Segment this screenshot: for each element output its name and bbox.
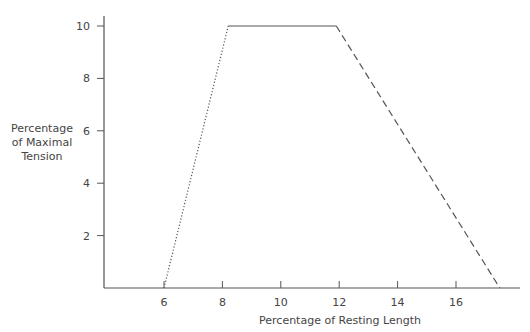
y-tick-label: 10 xyxy=(76,20,90,33)
series-line xyxy=(336,26,500,288)
x-ticks: 6810121416 xyxy=(161,281,464,309)
y-axis-title-line: Percentage xyxy=(11,122,73,135)
y-ticks: 246810 xyxy=(76,20,104,243)
x-tick-label: 12 xyxy=(332,296,346,309)
y-tick-label: 6 xyxy=(83,125,90,138)
y-axis-title-line: of Maximal xyxy=(12,136,72,149)
axes xyxy=(104,16,520,288)
x-tick-label: 14 xyxy=(391,296,405,309)
x-tick-label: 10 xyxy=(274,296,288,309)
series-line xyxy=(164,26,228,288)
series xyxy=(164,26,500,288)
y-axis-title-line: Tension xyxy=(20,150,62,163)
y-tick-label: 2 xyxy=(83,230,90,243)
y-tick-label: 8 xyxy=(83,72,90,85)
length-tension-chart: 246810 6810121416 Percentage of Resting … xyxy=(0,0,530,332)
y-tick-label: 4 xyxy=(83,177,90,190)
x-tick-label: 6 xyxy=(161,296,168,309)
x-tick-label: 16 xyxy=(449,296,463,309)
y-axis-title: Percentageof MaximalTension xyxy=(11,122,73,163)
x-tick-label: 8 xyxy=(219,296,226,309)
x-axis-title: Percentage of Resting Length xyxy=(259,314,421,327)
